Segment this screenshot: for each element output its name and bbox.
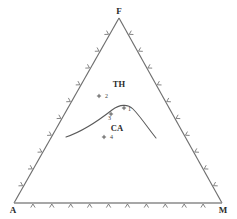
tick-mark-right [139,47,143,51]
tick-mark-bottom [50,204,54,208]
tick-mark-left [76,81,80,85]
vertex-label-a: A [10,205,17,215]
tick-mark-left [28,165,32,169]
data-point: 3 [108,112,113,121]
tick-mark-bottom [87,204,91,208]
tick-mark-right [176,115,180,119]
data-point-label: 1 [128,106,131,112]
ternary-diagram: F A M TH CA 1234 [0,0,237,219]
data-point: 2 [97,93,108,99]
tick-mark-bottom [163,204,167,208]
tick-mark-left [66,98,70,102]
tick-mark-right [195,148,199,152]
vertex-label-f: F [116,6,122,16]
tick-mark-bottom [106,204,110,208]
tick-mark-left [47,132,51,136]
tick-mark-bottom [201,204,205,208]
tick-mark-right [204,165,208,169]
tick-mark-left [95,47,99,51]
data-point-label: 3 [108,115,111,121]
tick-group-right [129,31,217,186]
vertex-label-m: M [219,205,228,215]
data-point-label: 4 [110,134,113,140]
tick-mark-bottom [182,204,186,208]
tick-mark-left [38,148,42,152]
data-point-label: 2 [105,93,108,99]
tick-mark-bottom [125,204,129,208]
tick-mark-right [157,81,161,85]
data-point: 4 [102,134,113,140]
field-label-th: TH [113,79,126,89]
tick-mark-bottom [69,204,73,208]
tick-mark-left [18,182,22,186]
tick-group-bottom [31,204,206,208]
ternary-plot-canvas: F A M TH CA 1234 [0,0,237,219]
tick-mark-right [185,132,189,136]
tick-mark-left [57,115,61,119]
tick-mark-bottom [31,204,35,208]
tick-mark-right [167,98,171,102]
tick-mark-bottom [144,204,148,208]
triangle-edge-left [14,18,119,203]
field-label-ca: CA [111,123,124,133]
triangle-frame [14,18,222,203]
tick-mark-right [129,31,133,35]
data-point: 1 [122,106,131,112]
tick-mark-right [214,182,218,186]
tick-group-left [18,31,108,186]
tick-mark-right [148,64,152,68]
tick-mark-left [85,64,89,68]
tick-mark-left [104,31,108,35]
